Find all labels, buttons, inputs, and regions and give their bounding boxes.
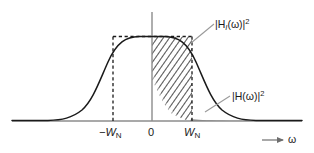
origin-label: 0 — [148, 126, 154, 138]
negative-cutoff-text: −W — [99, 126, 116, 138]
leader-line-ideal-filter — [191, 24, 214, 43]
stopband-tail-shading — [111, 37, 302, 121]
omega-axis-label: ω — [288, 133, 296, 145]
ideal-filter-label: |HI(ω)|2 — [215, 17, 250, 32]
real-filter-mag: |H(ω)| — [232, 90, 260, 102]
figure-canvas — [0, 0, 314, 153]
ideal-filter-closing: (ω)| — [227, 18, 245, 30]
real-filter-power: 2 — [260, 89, 264, 98]
positive-cutoff-text: W — [184, 126, 194, 138]
positive-cutoff-label: WN — [184, 126, 200, 140]
real-filter-label: |H(ω)|2 — [232, 89, 264, 102]
positive-cutoff-subscript: N — [194, 131, 200, 140]
negative-cutoff-label: −WN — [99, 126, 122, 140]
leader-line-real-filter — [205, 96, 230, 112]
filter-response-figure: |HI(ω)|2 |H(ω)|2 −WN 0 WN ω — [0, 0, 314, 153]
negative-cutoff-subscript: N — [116, 131, 122, 140]
ideal-filter-mag: |H — [215, 18, 225, 30]
ideal-filter-power: 2 — [245, 17, 249, 26]
